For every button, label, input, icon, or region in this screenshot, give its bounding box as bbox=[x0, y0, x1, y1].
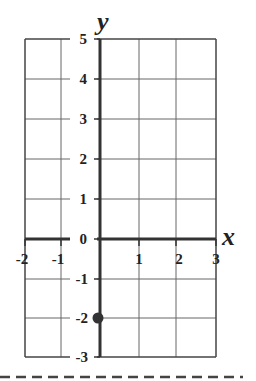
x-tick-label: 3 bbox=[212, 251, 220, 267]
y-tick-label: 1 bbox=[80, 191, 88, 207]
plot-border bbox=[25, 39, 216, 357]
y-tick-label: 2 bbox=[80, 151, 88, 167]
grid-lines bbox=[25, 39, 216, 357]
y-tick-label: 4 bbox=[80, 71, 88, 87]
coordinate-plane: 5 4 3 2 1 0 -1 -2 -3 -2 -1 1 2 3 y x bbox=[0, 0, 256, 381]
y-tick-label: -3 bbox=[76, 349, 89, 365]
x-tick-label: 1 bbox=[135, 251, 143, 267]
x-tick-label: -1 bbox=[52, 251, 65, 267]
y-tick-label: -2 bbox=[76, 310, 89, 326]
x-tick-label: 2 bbox=[175, 251, 183, 267]
y-tick-label: 5 bbox=[80, 31, 88, 47]
y-axis-label: y bbox=[94, 7, 109, 36]
y-tick-label: 0 bbox=[80, 231, 88, 247]
y-tick-label: 3 bbox=[80, 111, 88, 127]
y-tick-label: -1 bbox=[76, 271, 89, 287]
data-point bbox=[93, 313, 104, 324]
x-tick-label: -2 bbox=[16, 251, 29, 267]
x-axis-label: x bbox=[221, 222, 235, 251]
